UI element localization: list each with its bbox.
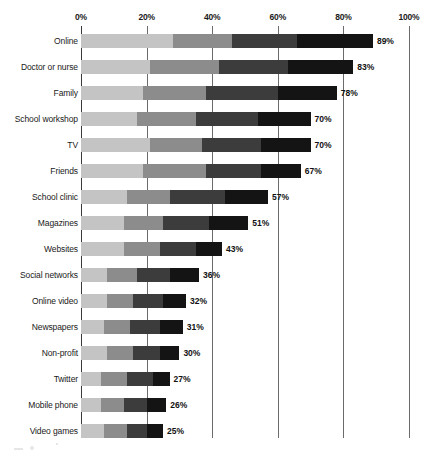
bar-segment-4 (147, 424, 163, 438)
stacked-bar (81, 216, 248, 230)
bar-segment-4 (170, 268, 200, 282)
bar-segment-3 (127, 424, 147, 438)
stacked-bar (81, 268, 199, 282)
bar-segment-3 (219, 60, 288, 74)
bar-value-label: 70% (315, 112, 332, 126)
chart-row: Online89% (0, 28, 423, 54)
chart-row: Twitter27% (0, 366, 423, 392)
scan-artifact (56, 443, 58, 445)
bar-segment-3 (133, 346, 159, 360)
bar-value-label: 31% (187, 320, 204, 334)
bar-value-label: 67% (305, 164, 322, 178)
chart-row: Video games25% (0, 418, 423, 444)
bar-segment-1 (81, 60, 150, 74)
x-axis-tick-20: 20% (138, 12, 154, 22)
stacked-bar (81, 242, 222, 256)
bar-value-label: 43% (226, 242, 243, 256)
chart-row: Newspapers31% (0, 314, 423, 340)
bar-segment-3 (160, 242, 196, 256)
bar-segment-1 (81, 320, 104, 334)
bar-value-label: 32% (190, 294, 207, 308)
bar-segment-3 (206, 164, 262, 178)
bar-segment-2 (124, 242, 160, 256)
stacked-bar (81, 164, 301, 178)
bar-segment-1 (81, 34, 173, 48)
stacked-bar (81, 34, 373, 48)
category-label-social-networks: Social networks (0, 262, 78, 288)
chart-row: TV70% (0, 132, 423, 158)
bar-segment-3 (127, 372, 153, 386)
stacked-bar (81, 424, 163, 438)
bar-segment-2 (107, 346, 133, 360)
bar-segment-3 (202, 138, 261, 152)
x-axis-tick-100: 100% (399, 12, 420, 22)
x-axis-tick-labels: 0%20%40%60%80%100% (0, 12, 423, 26)
bar-segment-4 (288, 60, 354, 74)
chart-rows: Online89%Doctor or nurse83%Family78%Scho… (0, 26, 423, 438)
bar-segment-2 (137, 112, 196, 126)
bar-segment-4 (153, 372, 169, 386)
stacked-bar (81, 346, 179, 360)
bar-segment-3 (130, 320, 160, 334)
chart-row: Non-profit30% (0, 340, 423, 366)
stacked-bar (81, 190, 268, 204)
x-axis-tick-40: 40% (204, 12, 220, 22)
stacked-bar (81, 60, 353, 74)
bar-segment-4 (147, 398, 167, 412)
stacked-bar-chart: 0%20%40%60%80%100% Online89%Doctor or nu… (0, 0, 423, 462)
stacked-bar (81, 398, 166, 412)
bar-value-label: 83% (357, 60, 374, 74)
bar-value-label: 30% (183, 346, 200, 360)
category-label-family: Family (0, 80, 78, 106)
bar-segment-1 (81, 164, 143, 178)
bar-segment-3 (137, 268, 170, 282)
bar-segment-2 (127, 190, 170, 204)
bar-segment-2 (104, 320, 130, 334)
chart-row: School workshop70% (0, 106, 423, 132)
bar-value-label: 89% (377, 34, 394, 48)
bar-segment-4 (160, 320, 183, 334)
bar-segment-4 (261, 138, 310, 152)
bar-segment-1 (81, 268, 107, 282)
bar-segment-3 (206, 86, 278, 100)
x-axis-tick-60: 60% (270, 12, 286, 22)
bar-segment-3 (196, 112, 258, 126)
bar-value-label: 57% (272, 190, 289, 204)
bar-segment-3 (133, 294, 163, 308)
bar-segment-4 (297, 34, 372, 48)
category-label-newspapers: Newspapers (0, 314, 78, 340)
chart-row: School clinic57% (0, 184, 423, 210)
category-label-online-video: Online video (0, 288, 78, 314)
bar-segment-4 (225, 190, 268, 204)
category-label-mobile-phone: Mobile phone (0, 392, 78, 418)
bar-segment-3 (170, 190, 226, 204)
chart-row: Online video32% (0, 288, 423, 314)
bar-segment-1 (81, 86, 143, 100)
category-label-non-profit: Non-profit (0, 340, 78, 366)
bar-segment-4 (278, 86, 337, 100)
category-label-doctor-or-nurse: Doctor or nurse (0, 54, 78, 80)
chart-row: Magazines51% (0, 210, 423, 236)
bar-value-label: 51% (252, 216, 269, 230)
bar-value-label: 25% (167, 424, 184, 438)
bar-segment-2 (143, 164, 205, 178)
bar-segment-2 (107, 294, 133, 308)
bar-segment-2 (150, 60, 219, 74)
bar-segment-3 (163, 216, 209, 230)
stacked-bar (81, 372, 170, 386)
category-label-video-games: Video games (0, 418, 78, 444)
bar-segment-1 (81, 216, 124, 230)
bar-segment-1 (81, 346, 107, 360)
chart-row: Social networks36% (0, 262, 423, 288)
bar-value-label: 36% (203, 268, 220, 282)
bar-segment-2 (104, 424, 127, 438)
bar-segment-4 (261, 164, 300, 178)
bar-segment-1 (81, 242, 124, 256)
stacked-bar (81, 294, 186, 308)
bar-value-label: 78% (341, 86, 358, 100)
bar-segment-1 (81, 294, 107, 308)
bar-segment-1 (81, 112, 137, 126)
category-label-school-clinic: School clinic (0, 184, 78, 210)
bar-segment-3 (124, 398, 147, 412)
x-axis-tick-0: 0% (75, 12, 87, 22)
